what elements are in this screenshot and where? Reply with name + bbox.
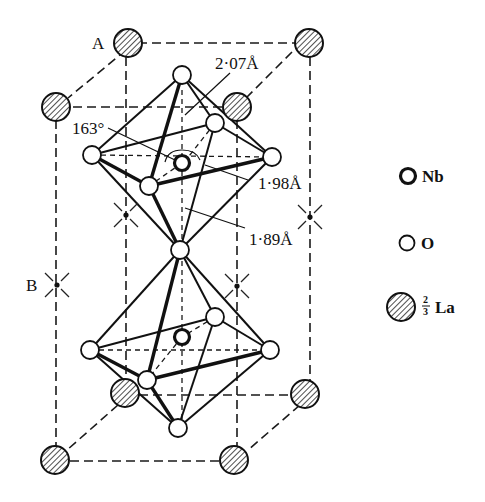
o-atom <box>263 148 281 166</box>
crystal-structure-diagram: A B 2·07Å 163° 1·98Å 1·89Å Nb O 2 3 La <box>0 0 485 502</box>
legend-label: O <box>421 234 434 253</box>
o-atoms <box>81 66 281 437</box>
o-atom <box>81 341 99 359</box>
bond-length-label: 1·89Å <box>249 230 293 249</box>
cell-edge <box>67 405 118 450</box>
la-atom <box>42 93 70 121</box>
leader-bond-short <box>185 208 245 228</box>
legend-item-nb: Nb <box>401 167 444 186</box>
vacancy-marker <box>45 273 69 297</box>
bond-length-label: 1·98Å <box>258 174 302 193</box>
cell-edge <box>68 50 126 98</box>
legend-label: Nb <box>422 167 444 186</box>
bond-length-label: 2·07Å <box>215 54 259 73</box>
nb-atom <box>175 330 190 345</box>
cell-edge <box>248 405 300 450</box>
o-atom <box>261 341 279 359</box>
angle-label: 163° <box>72 119 104 138</box>
octahedron-edge <box>92 155 180 250</box>
o-atom <box>169 419 187 437</box>
o-atom <box>206 308 224 326</box>
site-label-b: B <box>26 276 37 295</box>
o-atom <box>171 241 189 259</box>
octahedron-edge <box>215 123 272 157</box>
legend: Nb O 2 3 La <box>387 167 455 321</box>
legend-label: La <box>435 298 455 317</box>
octahedron-edge <box>90 317 215 350</box>
octahedron-edge <box>180 250 270 350</box>
octahedron-edge <box>149 157 272 186</box>
nb-atom-icon <box>401 169 416 184</box>
la-atom <box>291 380 319 408</box>
o-atom <box>138 371 156 389</box>
fraction-numerator: 2 <box>423 294 428 305</box>
o-atom <box>83 146 101 164</box>
fraction-denominator: 3 <box>423 306 428 317</box>
la-atom <box>220 446 248 474</box>
legend-item-la: 2 3 La <box>387 293 455 321</box>
site-label-a: A <box>92 34 105 53</box>
o-atom-icon <box>400 236 415 251</box>
o-atom <box>206 114 224 132</box>
la-atom <box>223 93 251 121</box>
la-atom-icon <box>387 293 415 321</box>
la-atom <box>114 29 142 57</box>
o-atom <box>140 177 158 195</box>
nb-atom <box>175 156 190 171</box>
legend-item-o: O <box>400 234 435 253</box>
la-atom <box>41 446 69 474</box>
la-atom <box>111 379 139 407</box>
la-atom <box>295 29 323 57</box>
vacancy-marker <box>114 203 138 227</box>
o-atom <box>173 66 191 84</box>
octahedron-edge <box>149 186 180 250</box>
